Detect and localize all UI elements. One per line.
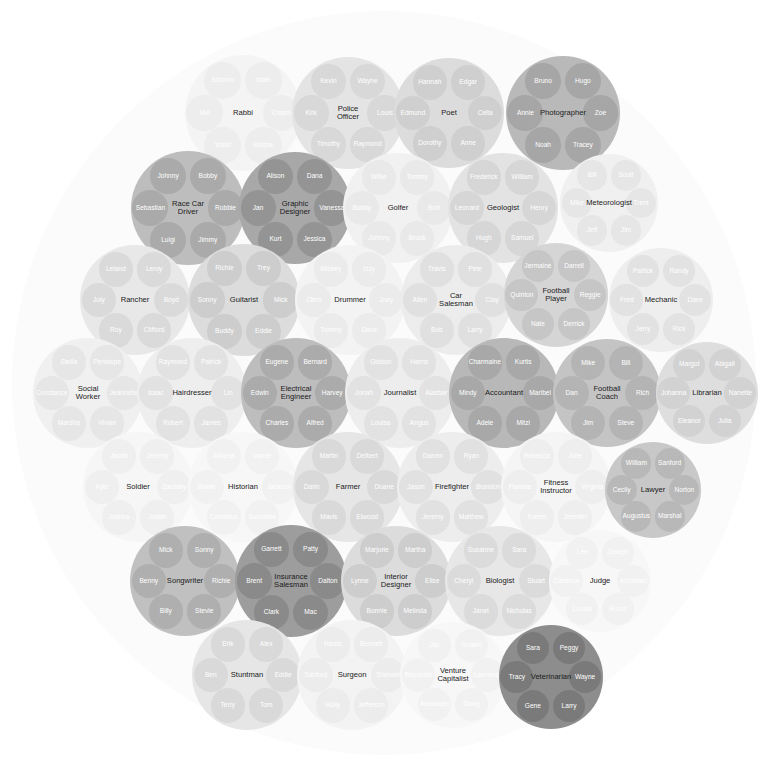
person-bubble[interactable]: Burt xyxy=(417,191,452,226)
person-bubble[interactable]: Richie xyxy=(207,251,242,286)
person-bubble[interactable]: Martha xyxy=(398,533,433,568)
person-bubble[interactable]: Ben xyxy=(194,658,229,693)
person-bubble[interactable]: Zachary xyxy=(157,470,192,505)
person-bubble[interactable]: Kevin xyxy=(311,64,346,99)
person-bubble[interactable]: Jerry xyxy=(627,313,660,346)
person-bubble[interactable]: Annie xyxy=(507,95,543,131)
person-bubble[interactable]: Reggie xyxy=(574,279,607,312)
person-bubble[interactable]: Margot xyxy=(673,349,705,381)
person-bubble[interactable]: Martin xyxy=(312,439,347,474)
person-bubble[interactable]: Archibald xyxy=(617,565,649,597)
person-bubble[interactable]: Alexander xyxy=(418,688,451,721)
person-bubble[interactable]: Athena xyxy=(207,439,242,474)
person-bubble[interactable]: Doug xyxy=(455,688,488,721)
person-bubble[interactable]: Larry xyxy=(553,690,586,723)
person-bubble[interactable]: Henry xyxy=(522,191,557,226)
person-bubble[interactable]: Mavis xyxy=(312,500,347,535)
person-bubble[interactable]: Anne xyxy=(451,126,486,161)
person-bubble[interactable]: Bobby xyxy=(345,191,380,226)
person-bubble[interactable]: Bobby xyxy=(190,158,226,194)
person-bubble[interactable]: Penelope xyxy=(90,345,125,380)
person-bubble[interactable]: Jason xyxy=(399,470,434,505)
person-bubble[interactable]: Cheryl xyxy=(447,564,482,599)
occupation-group-judge[interactable]: JosephLeeClarenceArchibaldLouiseRufusJud… xyxy=(549,530,651,632)
person-bubble[interactable]: Rebecca xyxy=(520,439,555,474)
person-bubble[interactable]: Bernard xyxy=(298,345,333,380)
person-bubble[interactable]: Abigail xyxy=(709,349,741,381)
person-bubble[interactable]: Brent xyxy=(237,563,272,598)
person-bubble[interactable]: Reynolds xyxy=(402,658,435,691)
person-bubble[interactable]: Clarence xyxy=(550,565,582,597)
person-bubble[interactable]: Travis xyxy=(420,252,455,287)
person-bubble[interactable]: Eugene xyxy=(260,345,295,380)
occupation-group-songwriter[interactable]: SonnyMickBennyRichieBillyStevieSongwrite… xyxy=(130,526,240,636)
occupation-group-football-player[interactable]: DarrellJermaineQuintonReggieNateDerrickF… xyxy=(504,243,608,347)
person-bubble[interactable]: Mike xyxy=(562,188,593,219)
occupation-group-veterinarian[interactable]: PeggySaraTracyWayneGeneLarryVeterinarian xyxy=(499,625,603,729)
occupation-group-photographer[interactable]: HugoBrunoAnnieZoeNoahTraceyPhotographer xyxy=(506,56,620,170)
person-bubble[interactable]: Edwin xyxy=(243,376,278,411)
person-bubble[interactable]: Melinda xyxy=(398,594,433,629)
person-bubble[interactable]: Shlomo xyxy=(204,62,241,99)
person-bubble[interactable]: Joey xyxy=(369,283,404,318)
person-bubble[interactable]: Tom xyxy=(249,688,284,723)
person-bubble[interactable]: Pamela xyxy=(503,470,538,505)
person-bubble[interactable]: Trey xyxy=(246,251,281,286)
person-bubble[interactable]: William xyxy=(621,448,651,478)
person-bubble[interactable]: Steve xyxy=(609,406,643,440)
person-bubble[interactable]: Charmaine xyxy=(468,345,503,380)
person-bubble[interactable]: Mike xyxy=(571,346,605,380)
person-bubble[interactable]: Jeff xyxy=(577,215,608,246)
person-bubble[interactable]: Jeremy xyxy=(140,439,175,474)
person-bubble[interactable]: Dan xyxy=(555,376,589,410)
person-bubble[interactable]: Julia xyxy=(709,405,741,437)
person-bubble[interactable]: Sebastian xyxy=(132,190,168,226)
person-bubble[interactable]: Jay xyxy=(418,629,451,662)
person-bubble[interactable]: Jan xyxy=(241,190,276,225)
person-bubble[interactable]: Ryan xyxy=(454,439,489,474)
occupation-group-social-worker[interactable]: PenelopeStellaConstanceJeannetteMarshaVi… xyxy=(33,338,143,448)
person-bubble[interactable]: Alison xyxy=(258,159,293,194)
person-bubble[interactable]: Sanford xyxy=(655,448,685,478)
person-bubble[interactable]: Julie xyxy=(558,439,593,474)
person-bubble[interactable]: Jennifer xyxy=(558,500,593,535)
person-bubble[interactable]: Sanford xyxy=(299,658,334,693)
occupation-group-stuntman[interactable]: AlexErikBenEddieTerryTomStuntman xyxy=(192,620,302,730)
person-bubble[interactable]: Leland xyxy=(99,252,134,287)
occupation-group-librarian[interactable]: AbigailMargotJohannaNanetteEleanorJuliaL… xyxy=(656,342,758,444)
occupation-group-hairdresser[interactable]: PatrickRaymondIsaacLinRobertJamesHairdre… xyxy=(137,338,247,448)
person-bubble[interactable]: Rick xyxy=(663,313,696,346)
person-bubble[interactable]: Mick xyxy=(149,533,184,568)
person-bubble[interactable]: Noah xyxy=(525,127,561,163)
person-bubble[interactable]: Bowie xyxy=(190,470,225,505)
person-bubble[interactable]: Jacob xyxy=(102,439,137,474)
person-bubble[interactable]: Billy xyxy=(149,594,184,629)
person-bubble[interactable]: Wayne xyxy=(350,64,385,99)
person-bubble[interactable]: Robert xyxy=(156,406,191,441)
person-bubble[interactable]: Terry xyxy=(211,688,246,723)
person-bubble[interactable]: Kyle xyxy=(85,470,120,505)
person-bubble[interactable]: Holly xyxy=(316,688,351,723)
person-bubble[interactable]: Nate xyxy=(522,308,555,341)
occupation-group-firefighter[interactable]: RyanDarrenJasonBrandonJeremyMatthewFiref… xyxy=(397,432,507,542)
person-bubble[interactable]: Joseph xyxy=(602,537,634,569)
person-bubble[interactable]: Kirk xyxy=(294,95,329,130)
person-bubble[interactable]: Clem xyxy=(297,283,332,318)
person-bubble[interactable]: Izzy xyxy=(352,252,387,287)
person-bubble[interactable]: Jermaine xyxy=(522,250,555,283)
person-bubble[interactable]: Louise xyxy=(566,593,598,625)
person-bubble[interactable]: Jackson xyxy=(262,470,297,505)
person-bubble[interactable]: Nicholas xyxy=(502,594,537,629)
person-bubble[interactable]: Gideon xyxy=(364,345,399,380)
person-bubble[interactable]: Constance xyxy=(35,376,70,411)
person-bubble[interactable]: Edgar xyxy=(451,65,486,100)
person-bubble[interactable]: Johnny xyxy=(150,158,186,194)
person-bubble[interactable]: Lynne xyxy=(343,564,378,599)
person-bubble[interactable]: Tommy xyxy=(400,160,435,195)
person-bubble[interactable]: Lee xyxy=(566,537,598,569)
person-bubble[interactable]: Quinton xyxy=(505,279,538,312)
person-bubble[interactable]: William xyxy=(505,160,540,195)
person-bubble[interactable]: Bennett xyxy=(354,627,389,662)
person-bubble[interactable]: Bruno xyxy=(525,63,561,99)
person-bubble[interactable]: Garrett xyxy=(254,532,289,567)
